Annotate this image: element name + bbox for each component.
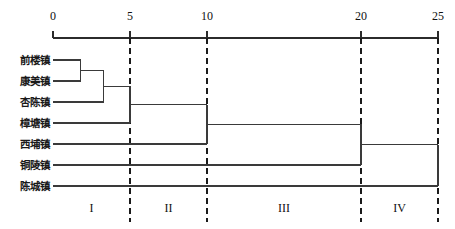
cluster-label: II [165, 202, 173, 214]
leaf-label: 樟塘镇 [20, 118, 50, 129]
leaf-label: 康美镇 [20, 76, 50, 87]
leaf-label: 杏陈镇 [20, 97, 50, 108]
leaf-label: 前楼镇 [20, 55, 50, 66]
dendrogram-plot [0, 0, 455, 229]
leaf-label: 西埔镇 [20, 139, 50, 150]
leaf-label: 铜陵镇 [20, 160, 50, 171]
cluster-label: IV [393, 202, 406, 214]
cluster-label: I [90, 202, 94, 214]
axis-tick-label: 5 [127, 10, 133, 22]
axis-tick-label: 0 [50, 10, 56, 22]
dendrogram-figure: 05102025前楼镇康美镇杏陈镇樟塘镇西埔镇铜陵镇陈城镇IIIIIIIV [0, 0, 455, 229]
axis-tick-label: 10 [201, 10, 213, 22]
cluster-label: III [278, 202, 290, 214]
axis-tick-label: 20 [355, 10, 367, 22]
axis-tick-label: 25 [432, 10, 444, 22]
leaf-label: 陈城镇 [20, 181, 50, 192]
